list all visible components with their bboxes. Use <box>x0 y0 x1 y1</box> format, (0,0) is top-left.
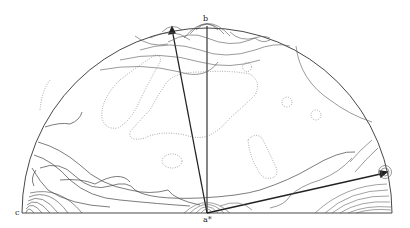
contours-b-pole <box>100 23 290 74</box>
contours-a-star-pole <box>184 203 252 214</box>
label-b: b <box>203 15 208 23</box>
contours-arrow-tip <box>135 26 190 45</box>
pole-figure-diagram <box>0 0 410 228</box>
arrow-upper-left <box>169 27 207 213</box>
contours-bottom-right <box>315 184 391 213</box>
contours-right <box>270 46 378 208</box>
contours-c-pole <box>26 192 82 213</box>
contours-left <box>32 112 200 207</box>
label-c: c <box>15 209 19 217</box>
arrow-right <box>207 171 387 213</box>
label-a-star: a* <box>203 216 212 224</box>
